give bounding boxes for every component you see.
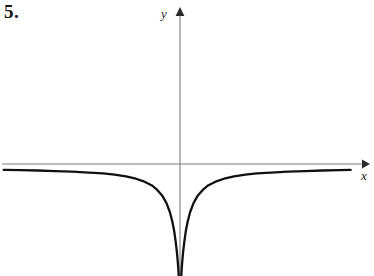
y-axis-label: y xyxy=(159,6,167,21)
graph-plot: y x xyxy=(0,0,374,276)
curve-right-branch xyxy=(181,170,350,276)
curve-left-branch xyxy=(4,170,179,276)
x-axis-label: x xyxy=(360,168,367,183)
exercise-figure: 5. y x xyxy=(0,0,374,276)
y-axis-arrow-icon xyxy=(176,7,185,16)
